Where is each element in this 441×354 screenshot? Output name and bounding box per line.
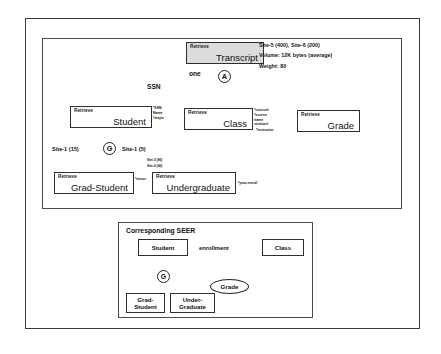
annotation-weight: Weight: 80 [259, 62, 286, 72]
node-grade[interactable]: Retrieve Grade [297, 110, 360, 132]
seer-panel-title: Corresponding SEER [126, 227, 195, 234]
node-operation-label: Retrieve [188, 110, 207, 115]
node-entity-label: Undergraduate [153, 182, 233, 193]
attribute-class-instructor: *instructor [256, 128, 274, 132]
attribute-student-ssn: *SSN [153, 106, 162, 110]
attribute-class-course-num: *course# [254, 108, 269, 112]
node-entity-label: Class [185, 118, 250, 129]
seer-node-label-line2: Student [134, 303, 157, 310]
node-operation-label: Retrieve [301, 112, 320, 117]
seer-relationship-label: enrollment [199, 245, 229, 251]
generalization-node-g[interactable]: G [103, 142, 116, 155]
node-transcript[interactable]: Retrieve Transcript [186, 42, 264, 64]
seer-attribute-grade[interactable]: Grade [210, 279, 249, 294]
attribute-student-name: Name [153, 111, 163, 115]
annotation-sites: Site-5 (400), Site-6 (200) [259, 41, 320, 51]
node-entity-label: Student [71, 116, 149, 127]
attribute-class-section: section# [254, 122, 268, 126]
seer-node-grad-student[interactable]: Grad- Student [126, 293, 165, 313]
annotation-volume: Volume: 12K bytes (average) [259, 51, 332, 61]
label-site-right-sub-1: Site-5 (80) [147, 158, 162, 162]
node-entity-label: Grad-Student [55, 182, 131, 193]
node-class[interactable]: Retrieve Class [184, 108, 253, 130]
node-grad-student[interactable]: Retrieve Grad-Student [54, 172, 134, 194]
seer-node-label-line2: Graduate [179, 303, 206, 310]
seer-node-undergraduate[interactable]: Under- Graduate [170, 293, 215, 313]
figure-canvas: Retrieve Transcript Site-5 (400), Site-6… [0, 0, 441, 354]
label-site-left: Site-1 (15) [52, 146, 79, 152]
label-ssn: SSN [147, 83, 161, 90]
node-operation-label: Retrieve [58, 174, 77, 179]
attribute-student-major: *major [153, 116, 164, 120]
attribute-undergraduate-year-enroll: *year-enroll [238, 181, 257, 185]
node-undergraduate[interactable]: Retrieve Undergraduate [152, 172, 236, 194]
seer-node-student[interactable]: Student [138, 239, 188, 256]
node-student[interactable]: Retrieve Student [70, 106, 152, 128]
label-site-right-sub-2: Site-6 (40) [147, 164, 162, 168]
label-one: one [189, 70, 201, 77]
seer-node-class[interactable]: Class [262, 239, 304, 256]
aggregation-node-a[interactable]: A [218, 70, 231, 83]
node-entity-label: Grade [298, 120, 357, 131]
seer-generalization-node-g[interactable]: G [157, 270, 170, 283]
node-operation-label: Retrieve [156, 174, 175, 179]
node-operation-label: Retrieve [190, 44, 209, 49]
node-entity-label: Transcript [187, 52, 261, 63]
seer-node-label-line1: Under- [183, 296, 203, 303]
seer-node-label-line1: Grad- [137, 296, 153, 303]
node-operation-label: Retrieve [74, 108, 93, 113]
attribute-grad-student-minor: *minor [135, 177, 146, 181]
label-site-right: Site-1 (5) [122, 146, 146, 152]
